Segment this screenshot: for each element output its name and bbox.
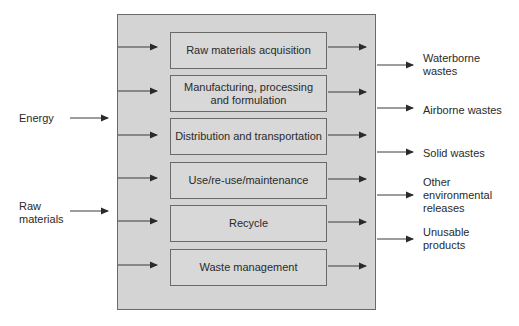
- arrows-layer: [0, 0, 519, 326]
